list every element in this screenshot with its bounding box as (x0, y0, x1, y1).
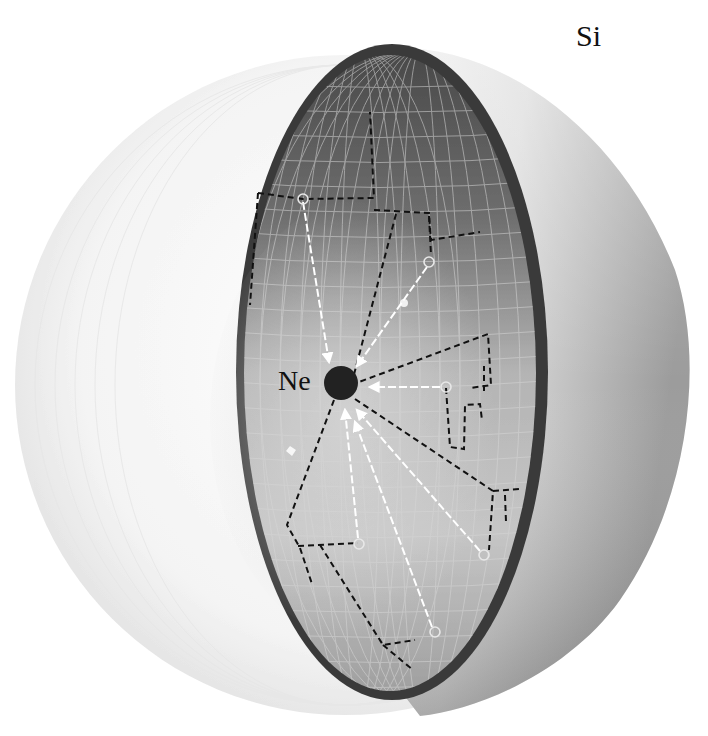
center-atom (324, 366, 358, 400)
outer-shell-label: Si (576, 21, 601, 51)
center-atom-label: Ne (278, 367, 311, 395)
shell-cutaway-diagram (0, 0, 708, 736)
